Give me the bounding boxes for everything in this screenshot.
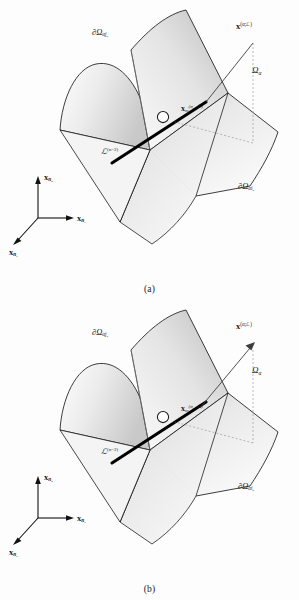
axes-triad xyxy=(13,476,74,545)
axis-label-down-left-a: xn3 xyxy=(9,248,18,258)
axis-label-down-left-b: xn3 xyxy=(9,548,18,558)
caption-b: (b) xyxy=(0,584,299,594)
label-boundary-lower-b: ∂Ωαiα xyxy=(238,482,254,492)
axes-triad xyxy=(13,176,74,245)
axis-label-right-b: xn1 xyxy=(77,514,86,524)
label-node-point-b: xm(σn−2ℒ) xyxy=(181,405,203,414)
figure-page: ∂Ωαjα x(α;ℒ) Ωα xm(σn−2ℒ) ℒ(n−2) ∂Ωαiα x… xyxy=(0,0,299,600)
label-node-point-a: xm(σn−2ℒ) xyxy=(181,105,203,114)
axis-label-up-b: xn2 xyxy=(44,473,53,483)
axis-label-up-a: xn2 xyxy=(44,173,53,183)
label-edge-b: ℒ(n−2) xyxy=(101,448,118,456)
panel-b-graphic xyxy=(0,300,299,600)
panel-a-graphic xyxy=(0,0,299,300)
label-domain-a: Ωα xyxy=(252,66,261,76)
label-boundary-upper-b: ∂Ωαjα xyxy=(92,328,108,338)
label-vector-b: x(α;ℒ) xyxy=(236,322,252,331)
node-marker xyxy=(157,411,168,422)
caption-a: (a) xyxy=(0,284,299,294)
figure-panel-a: ∂Ωαjα x(α;ℒ) Ωα xm(σn−2ℒ) ℒ(n−2) ∂Ωαiα x… xyxy=(0,0,299,300)
label-domain-b: Ωα xyxy=(252,366,261,376)
node-marker xyxy=(157,111,168,122)
label-boundary-upper-a: ∂Ωαjα xyxy=(92,28,108,38)
label-boundary-lower-a: ∂Ωαiα xyxy=(238,182,254,192)
label-vector-a: x(α;ℒ) xyxy=(236,22,252,31)
label-edge-a: ℒ(n−2) xyxy=(101,148,118,156)
axis-label-right-a: xn1 xyxy=(77,214,86,224)
figure-panel-b: ∂Ωαjα x(α;ℒ) Ωα xm(σn−2ℒ) ℒ(n−2) ∂Ωαiα x… xyxy=(0,300,299,600)
